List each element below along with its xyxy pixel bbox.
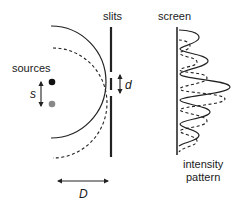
solid-wavefront-arc — [51, 26, 106, 138]
intensity-label-line2: pattern — [186, 171, 220, 183]
sources-label: sources — [12, 62, 51, 74]
source-separation-label: s — [30, 87, 36, 101]
double-slit-diagram: s sources slits d D screen intensity pat… — [0, 0, 244, 206]
source-1-dot — [49, 79, 56, 86]
source-2-dot — [49, 101, 56, 108]
slits-label: slits — [103, 10, 122, 22]
dashed-wavefront-arc — [53, 48, 107, 158]
slit-separation-label: d — [125, 78, 132, 92]
intensity-label-line1: intensity — [183, 158, 224, 170]
screen-label: screen — [158, 10, 191, 22]
distance-label: D — [79, 187, 88, 201]
